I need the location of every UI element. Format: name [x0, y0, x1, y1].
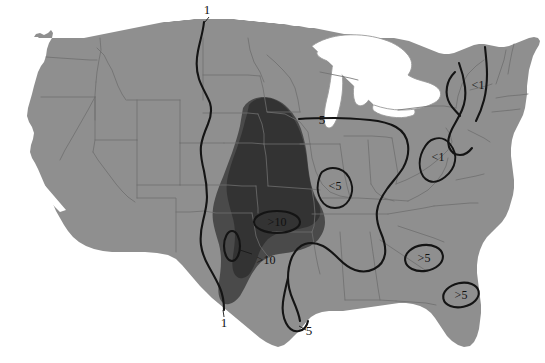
contour-label-5-midwest: 5 [319, 112, 326, 127]
contour-label-greater-5-georgia: >5 [418, 251, 431, 265]
contour-label-less-5-illinois: <5 [329, 179, 342, 193]
contour-label-less-1-appalachia: <1 [432, 150, 445, 164]
contour-label-greater-5-florida: >5 [455, 288, 468, 302]
contour-label-1-texas: 1 [221, 315, 228, 330]
contour-label-less-1-northeast: <1 [472, 78, 485, 92]
contour-label-1-north: 1 [204, 2, 211, 17]
contour-label-greater-10-oklahoma: >10 [257, 253, 276, 267]
us-contour-map-figure: 1 <1 5 <1 <5 >10 >10 >5 >5 1 5 [0, 0, 545, 363]
map-canvas: 1 <1 5 <1 <5 >10 >10 >5 >5 1 5 [0, 0, 545, 363]
contour-label-5-texas: 5 [306, 323, 313, 338]
contour-label-greater-10-missouri: >10 [268, 215, 287, 229]
